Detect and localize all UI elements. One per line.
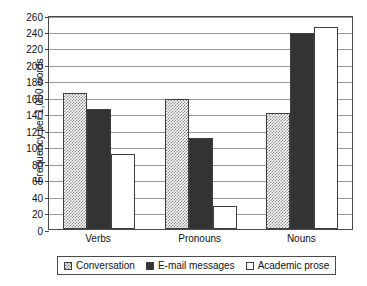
legend-item-conversation: Conversation bbox=[64, 260, 135, 271]
y-axis-tick-label: 20 bbox=[13, 214, 43, 215]
legend-item-academic-prose: Academic prose bbox=[246, 260, 330, 271]
bar-nouns-e-mail-messages bbox=[290, 33, 314, 229]
y-axis-tick-label: 140 bbox=[13, 115, 43, 116]
x-axis-label-nouns: Nouns bbox=[251, 233, 351, 244]
legend: ConversationE-mail messagesAcademic pros… bbox=[57, 256, 336, 275]
bar-verbs-e-mail-messages bbox=[87, 109, 111, 229]
legend-swatch-icon bbox=[146, 262, 154, 270]
bar-chart: Frequency per 1,000 words 02040608010012… bbox=[0, 0, 367, 286]
y-axis-tick bbox=[45, 181, 49, 182]
plot-area: 020406080100120140160180200220240260 bbox=[48, 16, 353, 230]
legend-item-e-mail-messages: E-mail messages bbox=[146, 260, 235, 271]
y-axis-tick-label: 40 bbox=[13, 198, 43, 199]
legend-swatch-icon bbox=[64, 262, 72, 270]
y-axis-tick bbox=[45, 82, 49, 83]
y-axis-tick-label: 240 bbox=[13, 33, 43, 34]
y-axis-tick bbox=[45, 49, 49, 50]
y-axis-tick bbox=[45, 33, 49, 34]
y-axis-tick bbox=[45, 66, 49, 67]
bar-nouns-academic-prose bbox=[314, 27, 338, 229]
y-axis-tick bbox=[45, 231, 49, 232]
legend-label: Academic prose bbox=[258, 260, 330, 271]
y-axis-tick-label: 260 bbox=[13, 17, 43, 18]
y-axis-tick-label: 0 bbox=[13, 231, 43, 232]
legend-swatch-icon bbox=[246, 262, 254, 270]
y-axis-tick bbox=[45, 132, 49, 133]
y-axis-tick-label: 160 bbox=[13, 99, 43, 100]
x-axis-label-pronouns: Pronouns bbox=[150, 233, 250, 244]
bar-pronouns-e-mail-messages bbox=[189, 138, 213, 229]
y-axis-tick-label: 180 bbox=[13, 82, 43, 83]
legend-label: Conversation bbox=[76, 260, 135, 271]
bar-verbs-conversation bbox=[63, 93, 87, 229]
y-axis-tick-label: 100 bbox=[13, 148, 43, 149]
y-axis-tick bbox=[45, 165, 49, 166]
y-axis-tick-label: 120 bbox=[13, 132, 43, 133]
y-axis-tick bbox=[45, 17, 49, 18]
y-axis-tick-label: 60 bbox=[13, 181, 43, 182]
bar-nouns-conversation bbox=[266, 113, 290, 229]
y-axis-tick bbox=[45, 198, 49, 199]
bar-pronouns-conversation bbox=[165, 99, 189, 229]
legend-label: E-mail messages bbox=[158, 260, 235, 271]
y-axis-tick bbox=[45, 99, 49, 100]
y-axis-tick bbox=[45, 115, 49, 116]
x-axis-label-verbs: Verbs bbox=[48, 233, 148, 244]
gridline bbox=[49, 17, 352, 18]
y-axis-tick-label: 80 bbox=[13, 165, 43, 166]
bar-verbs-academic-prose bbox=[111, 154, 135, 229]
y-axis-tick-label: 220 bbox=[13, 49, 43, 50]
y-axis-tick bbox=[45, 148, 49, 149]
y-axis-tick bbox=[45, 214, 49, 215]
bar-pronouns-academic-prose bbox=[213, 206, 237, 229]
y-axis-tick-label: 200 bbox=[13, 66, 43, 67]
